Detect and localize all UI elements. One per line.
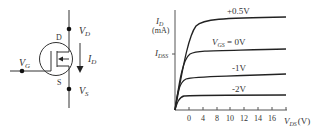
channel-arrow-icon	[58, 57, 63, 62]
y-axis-unit: (mA)	[152, 26, 170, 35]
drain-stub	[57, 45, 69, 52]
drain-characteristics-chart: +0.5V VGS = 0V -1V -2V ID (mA) IDSS 0 4 …	[152, 6, 310, 127]
curve-label-plus-0-5v: +0.5V	[227, 6, 250, 16]
vg-node-dot	[20, 69, 25, 74]
vg-label: VG	[19, 57, 30, 70]
x-tick-labels: 0 4 8 10 12 14 16	[187, 114, 276, 123]
svg-text:4: 4	[201, 114, 205, 123]
curve-minus-1v	[175, 74, 286, 110]
fet-diagram: VD VS VG ID D S +0.5V VGS = 0	[0, 0, 318, 135]
current-arrow-icon	[77, 66, 84, 73]
curves	[175, 17, 286, 110]
vs-label: VS	[79, 85, 89, 98]
curve-label-minus-1v: -1V	[232, 63, 246, 73]
svg-text:16: 16	[268, 114, 276, 123]
vd-label: VD	[79, 25, 90, 38]
curve-label-0v: VGS = 0V	[212, 37, 246, 48]
vs-node-dot	[67, 87, 72, 92]
curve-0v	[175, 49, 286, 110]
gate-wire	[10, 51, 51, 71]
idss-label: IDSS	[154, 48, 168, 59]
svg-text:8: 8	[215, 114, 219, 123]
source-stub	[57, 66, 69, 73]
drain-terminal-label: D	[56, 33, 62, 42]
svg-text:10: 10	[226, 114, 234, 123]
source-terminal-label: S	[57, 78, 61, 87]
svg-text:0: 0	[187, 114, 191, 123]
curve-label-minus-2v: -2V	[232, 84, 246, 94]
svg-text:12: 12	[240, 114, 248, 123]
vd-node-dot	[67, 27, 72, 32]
svg-text:14: 14	[254, 114, 262, 123]
x-axis-label: VDS(V)	[284, 116, 310, 127]
id-label: ID	[87, 53, 96, 66]
